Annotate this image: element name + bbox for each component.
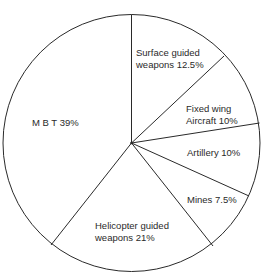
label-fixed-wing: Fixed wing Aircraft 10%	[186, 103, 238, 127]
label-mbt: M B T 39%	[32, 117, 79, 129]
label-helicopter-guided: Helicopter guided weapons 21%	[95, 220, 169, 244]
label-line: M B T 39%	[32, 117, 79, 129]
label-artillery: Artillery 10%	[187, 147, 240, 159]
label-line: Surface guided	[136, 47, 204, 59]
label-line: Aircraft 10%	[186, 115, 238, 127]
label-surface-guided: Surface guided weapons 12.5%	[136, 47, 204, 71]
pie-center	[130, 142, 133, 145]
label-mines: Mines 7.5%	[187, 194, 237, 206]
label-line: Fixed wing	[186, 103, 238, 115]
label-line: Helicopter guided	[95, 220, 169, 232]
label-line: Mines 7.5%	[187, 194, 237, 206]
label-line: weapons 21%	[95, 232, 169, 244]
label-line: Artillery 10%	[187, 147, 240, 159]
label-line: weapons 12.5%	[136, 59, 204, 71]
